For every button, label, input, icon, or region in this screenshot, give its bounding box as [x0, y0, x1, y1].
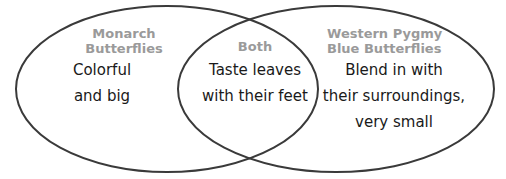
both-trait-line-2: with their feet [193, 83, 317, 109]
western-pygmy-label: Western Pygmy Blue Butterflies [327, 26, 442, 56]
western-pygmy-trait-line-3: very small [319, 109, 469, 135]
western-pygmy-label-line-2: Blue Butterflies [327, 41, 442, 56]
western-pygmy-trait-line-2: their surroundings, [319, 83, 469, 109]
monarch-label: Monarch Butterflies [80, 26, 168, 56]
monarch-label-line-2: Butterflies [80, 41, 168, 56]
western-pygmy-trait-line-1: Blend in with [319, 57, 469, 83]
both-traits: Taste leaves with their feet [193, 57, 317, 109]
western-pygmy-traits: Blend in with their surroundings, very s… [319, 57, 469, 135]
both-label: Both [232, 39, 278, 54]
monarch-label-line-1: Monarch [80, 26, 168, 41]
monarch-traits: Colorful and big [60, 57, 144, 109]
monarch-trait-line-1: Colorful [60, 57, 144, 83]
monarch-trait-line-2: and big [60, 83, 144, 109]
both-label-line-1: Both [232, 39, 278, 54]
both-trait-line-1: Taste leaves [193, 57, 317, 83]
western-pygmy-label-line-1: Western Pygmy [327, 26, 442, 41]
